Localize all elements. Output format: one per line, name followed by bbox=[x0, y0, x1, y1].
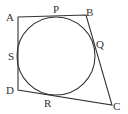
label-q: Q bbox=[96, 38, 104, 50]
label-r: R bbox=[44, 97, 52, 109]
label-a: A bbox=[6, 11, 14, 23]
geometry-diagram: A B C D P Q R S bbox=[0, 0, 128, 114]
label-d: D bbox=[6, 84, 14, 96]
label-c: C bbox=[113, 100, 120, 112]
quadrilateral-abcd bbox=[18, 15, 112, 105]
inscribed-circle bbox=[17, 17, 95, 95]
label-s: S bbox=[8, 50, 14, 62]
label-b: B bbox=[86, 6, 93, 18]
label-p: P bbox=[53, 3, 59, 15]
